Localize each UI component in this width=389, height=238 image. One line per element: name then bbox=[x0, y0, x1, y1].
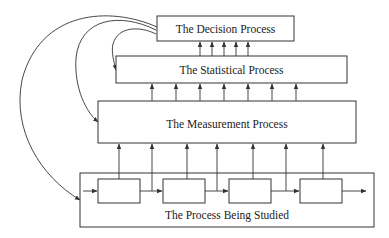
process-step-box bbox=[163, 179, 205, 203]
process-step-box bbox=[98, 179, 140, 203]
measurement-process-label: The Measurement Process bbox=[166, 118, 288, 130]
process-step-box bbox=[300, 179, 342, 203]
process-step-box bbox=[229, 179, 271, 203]
decision-process-label: The Decision Process bbox=[176, 23, 276, 35]
process-being-studied-label: The Process Being Studied bbox=[165, 209, 289, 222]
process-diagram: The Decision Process The Statistical Pro… bbox=[0, 0, 389, 238]
statistical-process-label: The Statistical Process bbox=[179, 64, 284, 76]
